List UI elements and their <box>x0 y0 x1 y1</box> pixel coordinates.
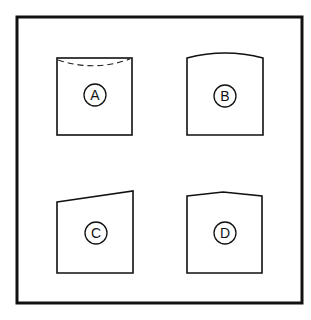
panel-c: C <box>57 191 133 273</box>
panel-d-label: D <box>220 225 230 241</box>
panel-a-label: A <box>90 87 100 103</box>
panel-a: A <box>57 58 132 135</box>
panel-d: D <box>187 192 262 273</box>
outer-frame <box>17 17 302 303</box>
panel-a-dashed-curve <box>58 59 130 66</box>
panel-b-label: B <box>220 88 229 104</box>
panel-b: B <box>187 53 263 135</box>
panel-c-label: C <box>91 225 101 241</box>
diagram-canvas: A B C D <box>0 0 311 320</box>
